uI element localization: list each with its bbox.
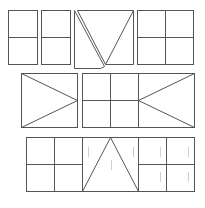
rect-quartered-narrow-1 [9,11,38,65]
edge [83,138,111,192]
edge [139,101,195,128]
edge [22,74,78,101]
bottom-row [27,138,195,192]
split-triangle-square [75,11,134,69]
top-row [9,11,194,69]
piece-outline [78,11,134,65]
rect-arrow-right [22,74,78,128]
edge [139,74,195,101]
middle-row [22,74,195,128]
geometric-puzzle-diagram [0,0,205,208]
outline [22,74,78,128]
rect-grid-with-arrow-left [83,74,195,128]
rect-quartered-square [138,11,194,65]
edge [111,138,139,192]
rect-quartered-narrow-2 [42,11,71,65]
rect-strip [27,138,195,192]
edge [22,101,78,128]
piece-outline [75,11,105,69]
